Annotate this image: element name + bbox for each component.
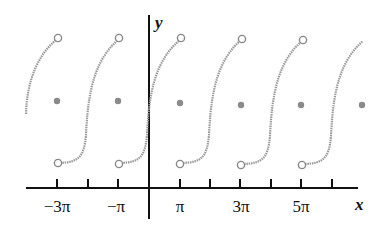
curve-branch bbox=[305, 41, 363, 164]
filled-points bbox=[54, 98, 365, 108]
curve-branch bbox=[26, 40, 56, 114]
filled-dot bbox=[359, 102, 365, 108]
filled-dot bbox=[177, 100, 183, 106]
tick-label-neg-3pi: −3π bbox=[44, 197, 71, 216]
open-circle bbox=[115, 160, 122, 167]
open-circle bbox=[115, 34, 122, 41]
curve-branch bbox=[121, 40, 180, 163]
open-circle bbox=[176, 160, 183, 167]
filled-dot bbox=[298, 102, 304, 108]
open-circle bbox=[54, 159, 61, 166]
tick-label-pi: π bbox=[176, 197, 185, 216]
y-axis-label: y bbox=[153, 13, 163, 32]
x-ticks bbox=[57, 179, 332, 188]
open-circle bbox=[177, 34, 184, 41]
curve-branch bbox=[244, 41, 302, 164]
tick-label-3pi: 3π bbox=[232, 197, 250, 216]
curve-branch bbox=[183, 40, 241, 163]
open-endpoints-bottom bbox=[54, 159, 305, 168]
open-circle bbox=[54, 34, 61, 41]
tick-label-neg-pi: −π bbox=[107, 197, 126, 216]
open-circle bbox=[298, 161, 305, 168]
open-endpoints-top bbox=[54, 34, 306, 43]
filled-dot bbox=[54, 98, 60, 104]
filled-dot bbox=[238, 102, 244, 108]
filled-dot bbox=[115, 98, 121, 104]
curve-branch bbox=[60, 40, 118, 163]
function-graph: y x −3π −π π 3π 5π bbox=[0, 0, 382, 239]
x-axis-label: x bbox=[354, 195, 364, 214]
open-circle bbox=[237, 161, 244, 168]
open-circle bbox=[299, 36, 306, 43]
function-curves bbox=[26, 40, 363, 164]
open-circle bbox=[238, 35, 245, 42]
tick-label-5pi: 5π bbox=[292, 197, 310, 216]
